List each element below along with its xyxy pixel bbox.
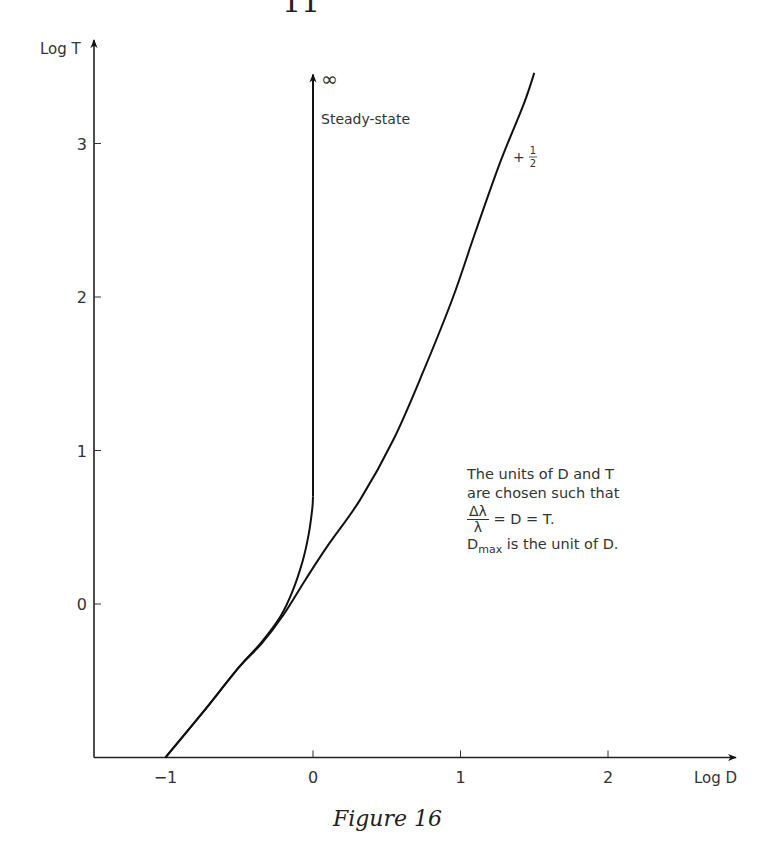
annotation-dmax: Dmax is the unit of D. bbox=[467, 535, 619, 559]
equation-rest: = D = T. bbox=[489, 511, 555, 527]
fraction-denominator: λ bbox=[474, 520, 482, 535]
steady-state-curve bbox=[166, 497, 314, 758]
dmax-rest: is the unit of D. bbox=[502, 536, 618, 552]
dmax-base: D bbox=[467, 536, 478, 552]
x-axis-label: Log D bbox=[694, 769, 737, 787]
x-tick-label: 1 bbox=[455, 768, 465, 787]
half-curve-label-plus: + bbox=[513, 149, 525, 165]
units-annotation: The units of D and T are chosen such tha… bbox=[467, 465, 619, 559]
y-tick-label: 1 bbox=[77, 442, 87, 461]
fraction-numerator: Δλ bbox=[467, 504, 489, 520]
x-tick-label: 0 bbox=[308, 768, 318, 787]
x-tick-label: 2 bbox=[603, 768, 613, 787]
delta-lambda-fraction: Δλ λ bbox=[467, 504, 489, 535]
y-axis-label: Log T bbox=[40, 40, 82, 58]
half-curve-label-denominator: 2 bbox=[530, 158, 536, 169]
annotation-line-2: are chosen such that bbox=[467, 484, 619, 503]
half-order-curve bbox=[166, 73, 535, 758]
chart: −10120123 Log TLog D∞Steady-state+12 bbox=[0, 0, 775, 842]
y-tick-label: 0 bbox=[77, 595, 87, 614]
half-curve-label-numerator: 1 bbox=[530, 145, 536, 156]
x-tick-label: −1 bbox=[154, 768, 178, 787]
infinity-symbol: ∞ bbox=[321, 67, 338, 91]
figure-caption: Figure 16 bbox=[0, 806, 775, 831]
annotation-equation: Δλ λ = D = T. bbox=[467, 504, 619, 535]
steady-state-label: Steady-state bbox=[321, 111, 410, 127]
dmax-subscript: max bbox=[478, 543, 502, 556]
y-tick-label: 2 bbox=[77, 288, 87, 307]
y-tick-label: 3 bbox=[77, 135, 87, 154]
annotation-line-1: The units of D and T bbox=[467, 465, 619, 484]
